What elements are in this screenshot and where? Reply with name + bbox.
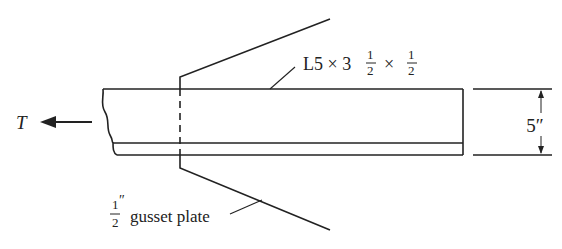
angle-leader-line — [270, 67, 295, 89]
dimension-label: 5″ — [526, 115, 543, 136]
gusset-plate — [180, 19, 330, 230]
angle-frac1-num: 1 — [367, 47, 374, 62]
dimension-arrow-up-icon — [538, 90, 544, 98]
angle-frac2-num: 1 — [408, 47, 415, 62]
angle-times: × — [384, 54, 394, 74]
gusset-frac-num: 1 — [112, 197, 119, 212]
angle-label-prefix: L5 × 3 — [303, 54, 351, 74]
arrowhead-left-icon — [40, 116, 56, 128]
force-arrow — [40, 116, 92, 128]
gusset-frac-unit: ″ — [119, 193, 125, 208]
angle-member — [102, 89, 463, 155]
angle-frac1-den: 2 — [367, 63, 374, 78]
gusset-label-text: gusset plate — [130, 207, 210, 226]
gusset-leader-line — [230, 200, 262, 214]
gusset-frac-den: 2 — [112, 215, 119, 230]
force-label: T — [16, 112, 28, 133]
angle-frac2-den: 2 — [408, 63, 415, 78]
dimension-arrow-down-icon — [538, 146, 544, 154]
tension-member-diagram: T L5 × 3 1 2 × 1 2 5″ 1 ″ 2 gusset plate — [0, 0, 562, 249]
break-line — [102, 89, 117, 155]
